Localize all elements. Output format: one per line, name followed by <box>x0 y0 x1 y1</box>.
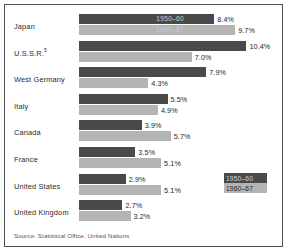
bar-period-1 <box>79 94 168 104</box>
bar-value-label: 10.4% <box>249 41 270 50</box>
bar-group: 5.5%4.9% <box>79 93 282 119</box>
legend-item-period-2: 1960–67 <box>224 183 267 193</box>
chart-row: U.S.S.R.510.4%7.0% <box>5 40 282 66</box>
bar-period-2 <box>79 131 171 141</box>
bar-period-1 <box>79 174 126 184</box>
legend-item-period-1: 1950–60 <box>224 173 267 183</box>
bar-period-1 <box>79 67 206 77</box>
bar-group: 2.7%3.2% <box>79 199 282 225</box>
bar-value-label: 5.1% <box>164 159 181 168</box>
bar-period-2 <box>79 158 161 168</box>
bar-value-label: 3.2% <box>134 212 151 221</box>
bar-value-label: 5.5% <box>171 94 188 103</box>
chart-row: France3.5%5.1% <box>5 146 282 172</box>
chart-row: Japan8.4%9.7%1950–601960–67 <box>5 13 282 39</box>
bar-period-2 <box>79 105 158 115</box>
bar-period-1 <box>79 41 246 51</box>
category-label: U.S.S.R.5 <box>14 48 47 57</box>
bar-value-label: 5.7% <box>174 132 191 141</box>
category-label: Japan <box>14 22 35 31</box>
category-label: United States <box>14 181 60 190</box>
bar-period-1 <box>79 200 122 210</box>
bar-value-label: 5.1% <box>164 185 181 194</box>
bar-period-1 <box>79 147 135 157</box>
category-label: United Kingdom <box>14 208 69 217</box>
bar-value-label: 2.7% <box>125 201 142 210</box>
bar-value-label: 8.4% <box>217 15 234 24</box>
bar-period-2 <box>79 78 148 88</box>
chart-frame: Japan8.4%9.7%1950–601960–67U.S.S.R.510.4… <box>4 4 283 247</box>
plot-area: Japan8.4%9.7%1950–601960–67U.S.S.R.510.4… <box>5 5 282 246</box>
source-note: Source: Statistical Office, United Natio… <box>14 232 130 239</box>
bar-group: 3.5%5.1% <box>79 146 282 172</box>
category-label: West Germany <box>14 75 65 84</box>
legend-label-period-2: 1960–67 <box>226 185 253 192</box>
bar-value-label: 7.0% <box>195 52 212 61</box>
bar-period-1 <box>79 120 142 130</box>
bar-period-2 <box>79 211 131 221</box>
chart-row: Canada3.9%5.7% <box>5 119 282 145</box>
bar-period-2 <box>79 52 192 62</box>
chart-row: Italy5.5%4.9% <box>5 93 282 119</box>
bar-value-label: 3.5% <box>138 148 155 157</box>
category-label: France <box>14 155 38 164</box>
growth-rate-bar-chart: Japan8.4%9.7%1950–601960–67U.S.S.R.510.4… <box>0 0 288 252</box>
legend-label-period-1: 1950–60 <box>226 175 253 182</box>
chart-legend: 1950–60 1960–67 <box>224 173 267 193</box>
bar-value-label: 3.9% <box>145 121 162 130</box>
chart-row: West Germany7.9%4.3% <box>5 66 282 92</box>
bar-value-label: 7.9% <box>209 68 226 77</box>
bar-group: 7.9%4.3% <box>79 66 282 92</box>
bar-group: 10.4%7.0% <box>79 40 282 66</box>
footnote-marker: 5 <box>44 47 47 53</box>
bar-value-label: 9.7% <box>238 26 255 35</box>
bar-period-2 <box>79 185 161 195</box>
category-label: Canada <box>14 128 41 137</box>
bar-value-label: 4.3% <box>151 79 168 88</box>
bar-group: 3.9%5.7% <box>79 119 282 145</box>
bar-period-1 <box>79 14 214 24</box>
bar-period-2 <box>79 25 235 35</box>
chart-row: United Kingdom2.7%3.2% <box>5 199 282 225</box>
bar-value-label: 2.9% <box>129 174 146 183</box>
category-label: Italy <box>14 101 28 110</box>
bar-value-label: 4.9% <box>161 105 178 114</box>
bar-group: 8.4%9.7%1950–601960–67 <box>79 13 282 39</box>
